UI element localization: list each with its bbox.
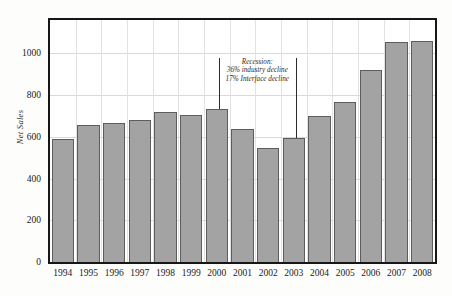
x-tick-1997: 1997 bbox=[130, 268, 149, 278]
bar-1997 bbox=[129, 120, 151, 262]
recession-end-marker bbox=[296, 58, 297, 138]
bar-1994 bbox=[52, 139, 74, 262]
x-tick-2004: 2004 bbox=[310, 268, 329, 278]
bar-2007 bbox=[385, 42, 407, 262]
y-tick-800: 800 bbox=[0, 90, 46, 100]
x-tick-1996: 1996 bbox=[105, 268, 124, 278]
bar-2001 bbox=[231, 129, 253, 262]
x-tick-2001: 2001 bbox=[233, 268, 252, 278]
bar-1996 bbox=[103, 123, 125, 262]
bar-1999 bbox=[180, 115, 202, 262]
bar-2000 bbox=[206, 109, 228, 262]
x-tick-1995: 1995 bbox=[79, 268, 98, 278]
bar-2003 bbox=[283, 138, 305, 262]
bar-1998 bbox=[154, 112, 176, 262]
bar-2004 bbox=[308, 116, 330, 262]
x-tick-1998: 1998 bbox=[156, 268, 175, 278]
x-tick-2002: 2002 bbox=[259, 268, 278, 278]
bar-series bbox=[50, 20, 435, 262]
recession-annotation: Recession: 36% industry decline 17% Inte… bbox=[223, 58, 292, 83]
net-sales-bar-chart: Net Sales 02004006008001000 Recession: 3… bbox=[0, 0, 452, 296]
y-tick-0: 0 bbox=[0, 257, 46, 267]
recession-start-marker bbox=[219, 58, 220, 109]
bar-2008 bbox=[411, 41, 433, 262]
x-axis-tick-labels: 1994199519961997199819992000200120022003… bbox=[48, 268, 437, 288]
y-tick-1000: 1000 bbox=[0, 48, 46, 58]
x-tick-2008: 2008 bbox=[413, 268, 432, 278]
x-tick-2000: 2000 bbox=[207, 268, 226, 278]
x-tick-2007: 2007 bbox=[387, 268, 406, 278]
bar-2005 bbox=[334, 102, 356, 262]
x-tick-2003: 2003 bbox=[284, 268, 303, 278]
y-tick-200: 200 bbox=[0, 215, 46, 225]
y-axis-tick-labels: 02004006008001000 bbox=[0, 0, 46, 296]
x-tick-2006: 2006 bbox=[361, 268, 380, 278]
x-tick-1999: 1999 bbox=[182, 268, 201, 278]
recession-annotation-line-3: 17% Interface decline bbox=[223, 75, 292, 83]
x-tick-2005: 2005 bbox=[336, 268, 355, 278]
plot-area: Recession: 36% industry decline 17% Inte… bbox=[48, 18, 437, 264]
x-tick-1994: 1994 bbox=[53, 268, 72, 278]
recession-annotation-line-1: Recession: bbox=[223, 58, 292, 66]
y-tick-600: 600 bbox=[0, 132, 46, 142]
y-tick-400: 400 bbox=[0, 174, 46, 184]
bar-2006 bbox=[360, 70, 382, 262]
recession-annotation-line-2: 36% industry decline bbox=[223, 66, 292, 74]
bar-1995 bbox=[77, 125, 99, 262]
bar-2002 bbox=[257, 148, 279, 262]
